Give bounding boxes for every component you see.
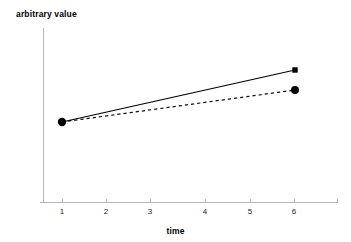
chart-canvas: arbitrary value time 1 2 3 4 5 6 <box>0 0 351 242</box>
x-tick-label-2: 2 <box>104 208 108 216</box>
marker-solid-square <box>292 67 297 72</box>
x-tick-label-6: 6 <box>292 208 296 216</box>
x-axis-ticks <box>63 199 338 202</box>
series-line-solid <box>62 70 295 122</box>
marker-dashed-circle <box>291 86 299 94</box>
marker-origin-circle <box>58 118 66 126</box>
series-line-dashed <box>62 90 295 122</box>
plot-area <box>0 0 351 242</box>
y-axis-label: arbitrary value <box>16 10 77 19</box>
x-tick-label-5: 5 <box>248 208 252 216</box>
x-tick-label-3: 3 <box>148 208 152 216</box>
x-tick-label-4: 4 <box>203 208 207 216</box>
x-axis-label: time <box>0 227 351 236</box>
x-tick-label-1: 1 <box>60 208 64 216</box>
